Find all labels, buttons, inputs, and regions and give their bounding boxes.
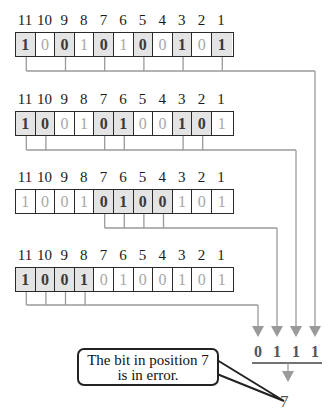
bit-cell-7: 0 [94, 33, 114, 56]
position-label: 3 [172, 170, 192, 185]
error-position-result: 7 [280, 392, 289, 412]
position-label: 5 [133, 170, 153, 185]
bit-cell-10: 0 [36, 268, 56, 291]
position-label: 3 [172, 13, 192, 28]
position-label: 8 [74, 92, 94, 107]
position-label: 2 [191, 92, 211, 107]
bit-cell-11: 1 [16, 33, 36, 56]
bit-cell-1: 1 [212, 33, 232, 56]
bit-cell-3: 1 [173, 268, 193, 291]
bit-cell-4: 0 [153, 190, 173, 213]
position-label: 1 [211, 13, 231, 28]
position-label: 8 [74, 13, 94, 28]
result-bit-4: 1 [270, 343, 284, 361]
position-label: 5 [133, 13, 153, 28]
position-label: 7 [93, 170, 113, 185]
callout-line-1: The bit in position 7 [79, 353, 217, 368]
bit-cell-8: 1 [75, 112, 95, 135]
position-label: 10 [35, 248, 55, 263]
bit-cell-1: 1 [212, 268, 232, 291]
bit-cell-11: 1 [16, 190, 36, 213]
position-label: 4 [152, 92, 172, 107]
position-label: 11 [15, 92, 35, 107]
result-bit-2: 1 [289, 343, 303, 361]
position-label: 6 [113, 248, 133, 263]
bit-cell-9: 0 [55, 33, 75, 56]
position-label: 2 [191, 170, 211, 185]
bit-cell-2: 0 [192, 33, 212, 56]
position-label: 9 [54, 170, 74, 185]
position-label: 2 [191, 13, 211, 28]
position-label: 11 [15, 170, 35, 185]
bit-cell-7: 0 [94, 268, 114, 291]
bit-cell-3: 1 [173, 112, 193, 135]
bit-cell-10: 0 [36, 190, 56, 213]
bit-cell-4: 0 [153, 33, 173, 56]
bit-cell-3: 1 [173, 33, 193, 56]
position-label: 7 [93, 248, 113, 263]
bit-cell-11: 1 [16, 268, 36, 291]
bit-row-3: 10010100101 [15, 189, 234, 214]
bit-cell-10: 0 [36, 112, 56, 135]
position-label: 8 [74, 170, 94, 185]
position-label: 3 [172, 92, 192, 107]
bit-cell-9: 0 [55, 112, 75, 135]
position-label: 1 [211, 92, 231, 107]
bit-cell-6: 1 [114, 190, 134, 213]
position-label: 8 [74, 248, 94, 263]
bit-cell-4: 0 [153, 268, 173, 291]
position-label: 6 [113, 13, 133, 28]
bit-cell-6: 1 [114, 33, 134, 56]
bit-cell-9: 0 [55, 268, 75, 291]
bit-cell-2: 0 [192, 268, 212, 291]
bit-cell-7: 0 [94, 112, 114, 135]
result-bit-8: 0 [251, 343, 265, 361]
position-label: 1 [211, 248, 231, 263]
position-label: 9 [54, 13, 74, 28]
bit-row-4: 10010100101 [15, 267, 234, 292]
hamming-error-detection-diagram: 1110987654321100101001011110987654321100… [0, 0, 332, 414]
bit-row-2: 10010100101 [15, 111, 234, 136]
bit-cell-8: 1 [75, 268, 95, 291]
bit-cell-3: 1 [173, 190, 193, 213]
position-label: 1 [211, 170, 231, 185]
position-label: 11 [15, 248, 35, 263]
position-label: 9 [54, 92, 74, 107]
bit-cell-8: 1 [75, 190, 95, 213]
bit-cell-2: 0 [192, 190, 212, 213]
position-label: 4 [152, 13, 172, 28]
position-label: 11 [15, 13, 35, 28]
position-label: 10 [35, 13, 55, 28]
bit-cell-10: 0 [36, 33, 56, 56]
position-label: 5 [133, 248, 153, 263]
bit-cell-6: 1 [114, 268, 134, 291]
bit-cell-5: 0 [134, 112, 154, 135]
position-label: 3 [172, 248, 192, 263]
error-callout: The bit in position 7 is in error. [77, 348, 219, 386]
position-label: 6 [113, 170, 133, 185]
bit-row-1: 10010100101 [15, 32, 234, 57]
bit-cell-8: 1 [75, 33, 95, 56]
result-bit-1: 1 [308, 343, 322, 361]
bit-cell-5: 0 [134, 33, 154, 56]
position-label: 6 [113, 92, 133, 107]
bit-cell-11: 1 [16, 112, 36, 135]
position-label: 2 [191, 248, 211, 263]
bit-cell-9: 0 [55, 190, 75, 213]
position-label: 9 [54, 248, 74, 263]
position-label: 4 [152, 248, 172, 263]
position-label: 10 [35, 170, 55, 185]
bit-cell-1: 1 [212, 190, 232, 213]
callout-line-2: is in error. [79, 368, 217, 383]
bit-cell-5: 0 [134, 190, 154, 213]
position-label: 5 [133, 92, 153, 107]
position-label: 7 [93, 92, 113, 107]
bit-cell-2: 0 [192, 112, 212, 135]
bit-cell-7: 0 [94, 190, 114, 213]
position-label: 7 [93, 13, 113, 28]
position-label: 10 [35, 92, 55, 107]
bit-cell-5: 0 [134, 268, 154, 291]
bit-cell-4: 0 [153, 112, 173, 135]
bit-cell-1: 1 [212, 112, 232, 135]
bit-cell-6: 1 [114, 112, 134, 135]
